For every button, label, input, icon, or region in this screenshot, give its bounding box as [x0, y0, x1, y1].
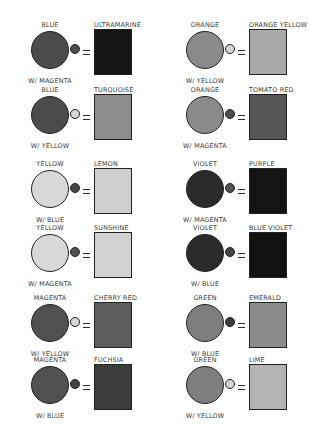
mix-cell: VIOLET W/ MAGENTA PURPLE: [163, 160, 311, 224]
result-color-swatch: [249, 168, 287, 214]
equals-sign-icon: [83, 189, 90, 194]
base-color-circle: [186, 366, 224, 404]
equals-sign-icon: [83, 323, 90, 328]
mix-with-label: W/ YELLOW: [175, 77, 235, 85]
mix-cell: ORANGE W/ MAGENTA TOMATO RED: [163, 86, 311, 150]
base-color-label: MAGENTA: [20, 356, 80, 364]
mix-cell: VIOLET W/ BLUE BLUE VIOLET: [163, 224, 311, 288]
mix-color-dot: [225, 317, 235, 327]
result-color-label: FUCHSIA: [94, 356, 123, 364]
base-color-circle: [31, 304, 69, 342]
result-color-label: LEMON: [94, 160, 118, 168]
base-color-circle: [31, 31, 69, 69]
mix-with-label: W/ MAGENTA: [175, 216, 235, 224]
result-color-label: ULTRAMARINE: [94, 21, 141, 29]
equals-sign-icon: [238, 323, 245, 328]
equals-sign-icon: [83, 50, 90, 55]
mix-color-dot: [70, 379, 80, 389]
base-color-circle: [186, 304, 224, 342]
base-color-circle: [31, 96, 69, 134]
mix-cell: MAGENTA W/ YELLOW CHERRY RED: [8, 294, 158, 358]
result-color-swatch: [94, 29, 132, 75]
result-color-swatch: [249, 364, 287, 410]
base-color-label: VIOLET: [175, 224, 235, 232]
base-color-label: GREEN: [175, 294, 235, 302]
mix-cell: MAGENTA W/ BLUE FUCHSIA: [8, 356, 158, 420]
base-color-circle: [186, 96, 224, 134]
result-color-label: SUNSHINE: [94, 224, 129, 232]
mix-color-dot: [225, 379, 235, 389]
mix-color-dot: [70, 183, 80, 193]
mix-with-label: W/ MAGENTA: [175, 142, 235, 150]
equals-sign-icon: [238, 385, 245, 390]
mix-color-dot: [70, 317, 80, 327]
result-color-swatch: [94, 364, 132, 410]
mix-color-dot: [70, 44, 80, 54]
equals-sign-icon: [83, 253, 90, 258]
mix-with-label: W/ BLUE: [175, 280, 235, 288]
base-color-label: MAGENTA: [20, 294, 80, 302]
result-color-label: PURPLE: [249, 160, 275, 168]
result-color-swatch: [249, 94, 287, 140]
mix-with-label: W/ BLUE: [20, 412, 80, 420]
equals-sign-icon: [238, 189, 245, 194]
base-color-label: BLUE: [20, 21, 80, 29]
base-color-circle: [186, 31, 224, 69]
base-color-label: YELLOW: [20, 160, 80, 168]
mix-cell: YELLOW W/ MAGENTA SUNSHINE: [8, 224, 158, 288]
result-color-label: CHERRY RED: [94, 294, 137, 302]
mix-color-dot: [70, 247, 80, 257]
mix-color-dot: [225, 109, 235, 119]
result-color-swatch: [249, 302, 287, 348]
mix-with-label: W/ YELLOW: [20, 142, 80, 150]
mix-color-dot: [225, 44, 235, 54]
base-color-circle: [31, 170, 69, 208]
mix-color-dot: [225, 247, 235, 257]
base-color-circle: [186, 170, 224, 208]
result-color-label: TOMATO RED: [249, 86, 294, 94]
result-color-label: LIME: [249, 356, 265, 364]
result-color-swatch: [94, 94, 132, 140]
result-color-label: ORANGE YELLOW: [249, 21, 307, 29]
result-color-label: BLUE VIOLET: [249, 224, 292, 232]
mix-cell: GREEN W/ YELLOW LIME: [163, 356, 311, 420]
base-color-circle: [186, 234, 224, 272]
result-color-label: TURQUOISE: [94, 86, 134, 94]
base-color-circle: [31, 366, 69, 404]
mix-cell: BLUE W/ MAGENTA ULTRAMARINE: [8, 21, 158, 85]
base-color-label: YELLOW: [20, 224, 80, 232]
result-color-label: EMERALD: [249, 294, 281, 302]
mix-with-label: W/ MAGENTA: [20, 280, 80, 288]
equals-sign-icon: [238, 50, 245, 55]
result-color-swatch: [94, 232, 132, 278]
base-color-label: GREEN: [175, 356, 235, 364]
mix-cell: YELLOW W/ BLUE LEMON: [8, 160, 158, 224]
base-color-label: VIOLET: [175, 160, 235, 168]
base-color-label: BLUE: [20, 86, 80, 94]
base-color-label: ORANGE: [175, 21, 235, 29]
equals-sign-icon: [83, 385, 90, 390]
equals-sign-icon: [238, 115, 245, 120]
mix-with-label: W/ YELLOW: [175, 412, 235, 420]
base-color-label: ORANGE: [175, 86, 235, 94]
equals-sign-icon: [238, 253, 245, 258]
result-color-swatch: [94, 168, 132, 214]
mix-color-dot: [70, 109, 80, 119]
result-color-swatch: [249, 232, 287, 278]
mix-cell: BLUE W/ YELLOW TURQUOISE: [8, 86, 158, 150]
mix-color-dot: [225, 183, 235, 193]
mix-with-label: W/ BLUE: [20, 216, 80, 224]
equals-sign-icon: [83, 115, 90, 120]
mix-cell: ORANGE W/ YELLOW ORANGE YELLOW: [163, 21, 311, 85]
mix-cell: GREEN W/ BLUE EMERALD: [163, 294, 311, 358]
mix-with-label: W/ MAGENTA: [20, 77, 80, 85]
result-color-swatch: [249, 29, 287, 75]
base-color-circle: [31, 234, 69, 272]
result-color-swatch: [94, 302, 132, 348]
